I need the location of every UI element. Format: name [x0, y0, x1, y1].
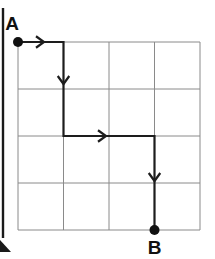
lattice-path-figure: A B [0, 0, 215, 259]
figure-background [0, 0, 215, 259]
end-point-label-b: B [148, 237, 162, 258]
figure-canvas: A B [0, 0, 215, 259]
start-point-label-a: A [5, 13, 19, 34]
end-point-dot-b [150, 225, 160, 235]
start-point-dot-a [13, 37, 23, 47]
